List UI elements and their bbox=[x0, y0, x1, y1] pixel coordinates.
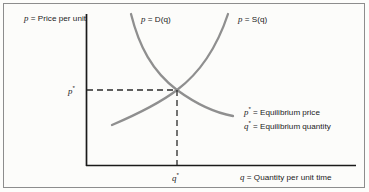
y-axis-tick-label-p-star: p* bbox=[68, 84, 75, 97]
supply-label-text: = S(q) bbox=[242, 15, 267, 24]
legend-item-equilibrium-price: p* = Equilibrium price bbox=[244, 105, 331, 119]
legend: p* = Equilibrium price q* = Equilibrium … bbox=[244, 105, 331, 132]
demand-label-text: = D(q) bbox=[145, 15, 170, 24]
legend-price-text: = Equilibrium price bbox=[251, 108, 320, 117]
plot-svg bbox=[0, 0, 369, 192]
supply-curve-label: p = S(q) bbox=[238, 14, 267, 26]
x-axis-title-text: = Quantity per unit time bbox=[244, 173, 331, 182]
p-star-asterisk: * bbox=[72, 84, 74, 91]
legend-quantity-text: = Equilibrium quantity bbox=[251, 121, 331, 130]
demand-curve bbox=[131, 14, 233, 116]
figure-container: p = Price per unit p = D(q) p = S(q) q =… bbox=[0, 0, 369, 192]
legend-item-equilibrium-quantity: q* = Equilibrium quantity bbox=[244, 119, 331, 133]
y-axis-title: p = Price per unit bbox=[24, 13, 86, 25]
q-star-asterisk: * bbox=[176, 171, 178, 178]
x-axis-title: q = Quantity per unit time bbox=[240, 172, 332, 184]
y-axis-title-text: = Price per unit bbox=[28, 14, 86, 23]
demand-curve-label: p = D(q) bbox=[141, 14, 171, 26]
x-axis-tick-label-q-star: q* bbox=[172, 171, 179, 184]
